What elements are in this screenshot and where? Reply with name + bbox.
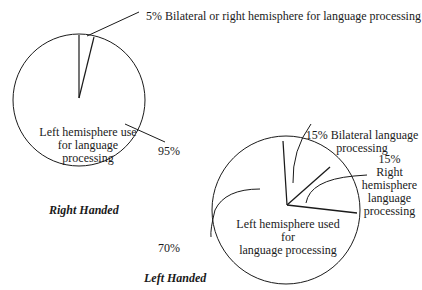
- left-handed-title: Left Handed: [144, 271, 206, 286]
- left-left-line3: language processing: [228, 244, 348, 257]
- left-right-hemisphere-label: 15% Right hemisphere language processing: [357, 153, 422, 218]
- left-bilateral-label: 15% Bilateral language processing: [302, 129, 422, 155]
- left-left-hemisphere-label: Left hemisphere used for language proces…: [228, 218, 348, 257]
- right-handed-title: Right Handed: [49, 203, 119, 218]
- right-left-label-line3: processing: [38, 152, 138, 165]
- right-left-hemisphere-label: Left hemisphere use for language process…: [38, 126, 138, 165]
- right-left-pct: 95%: [158, 145, 180, 158]
- left-right-line5: processing: [357, 205, 422, 218]
- left-left-pct: 70%: [158, 242, 180, 255]
- right-bilateral-label: 5% Bilateral or right hemisphere for lan…: [146, 10, 421, 23]
